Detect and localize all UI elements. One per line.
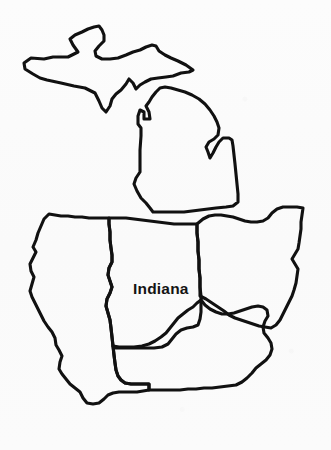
state-shape-michigan-lower-peninsula [134,87,238,212]
state-label-indiana: Indiana [133,281,189,297]
map-page: Indiana [0,0,331,450]
region-outline-map [0,0,331,450]
